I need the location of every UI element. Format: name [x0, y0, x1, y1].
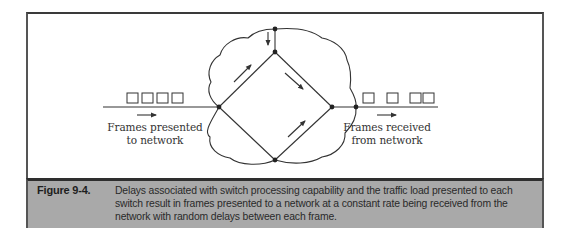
arrow-up-right-icon — [234, 65, 251, 82]
node-diamond-left — [217, 105, 222, 110]
network-delay-diagram — [0, 0, 569, 180]
frame-box — [410, 93, 421, 103]
frame-box — [172, 93, 183, 103]
frame-box — [387, 93, 398, 103]
link-top-right — [275, 52, 332, 107]
link-left-bottom — [219, 107, 275, 160]
node-cloud-exit — [354, 105, 359, 110]
frame-box — [142, 93, 153, 103]
frames-received-label: Frames received from network — [332, 121, 442, 147]
figure-number: Figure 9-4. — [37, 184, 90, 196]
label-line: from network — [332, 134, 442, 147]
link-left-top — [219, 52, 275, 107]
link-bottom-right — [275, 107, 332, 160]
node-diamond-bottom — [273, 158, 278, 163]
frame-box — [127, 93, 138, 103]
caption-text: Delays associated with switch processing… — [115, 184, 535, 223]
node-diamond-right — [330, 105, 335, 110]
node-cloud-top — [273, 27, 278, 32]
label-line: to network — [105, 134, 205, 147]
node-diamond-top — [273, 50, 278, 55]
frame-box — [363, 93, 374, 103]
figure-caption: Figure 9-4. Delays associated with switc… — [26, 178, 544, 228]
arrow-down-right-icon — [285, 73, 303, 89]
frame-box — [157, 93, 168, 103]
label-line: Frames received — [332, 121, 442, 134]
frame-box — [423, 93, 434, 103]
output-frames — [363, 93, 434, 103]
input-frames — [127, 93, 183, 103]
frames-presented-label: Frames presented to network — [105, 121, 205, 147]
label-line: Frames presented — [105, 121, 205, 134]
